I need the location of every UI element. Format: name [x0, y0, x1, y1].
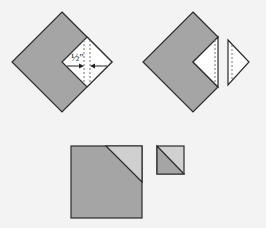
step2-group	[143, 12, 249, 112]
step1-group: ½"	[12, 12, 112, 112]
step3-group	[71, 146, 184, 218]
seam-allowance-label: ½"	[71, 51, 84, 63]
step2-removed-triangle	[228, 40, 249, 85]
diagram-canvas: ½"	[0, 0, 266, 228]
